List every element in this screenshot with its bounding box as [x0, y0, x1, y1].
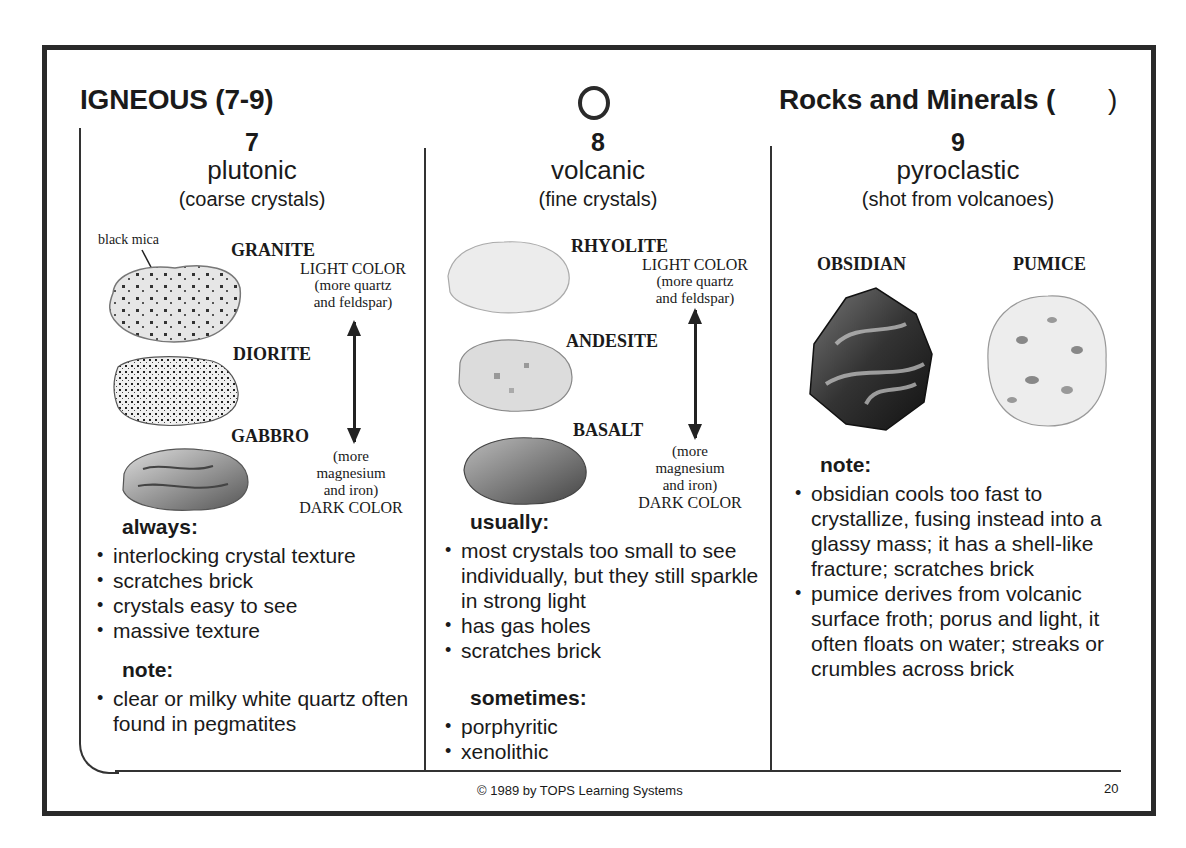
column-plutonic: 7 plutonic (coarse crystals)	[80, 128, 424, 211]
light-color-note: LIGHT COLOR (more quartz and feldspar)	[288, 260, 418, 311]
list-item: massive texture	[97, 618, 422, 643]
dark-note-line: magnesium	[291, 465, 411, 482]
list-item: scratches brick	[445, 638, 765, 663]
basalt-rock-image	[460, 432, 590, 508]
column-number: 9	[772, 128, 1144, 157]
column-subtitle: (fine crystals)	[426, 188, 770, 211]
rock-name-obsidian: OBSIDIAN	[817, 254, 906, 275]
granite-rock-image	[105, 258, 245, 348]
subject-title-close: )	[1108, 84, 1117, 116]
dark-note-line: (more	[630, 443, 750, 460]
list-item: interlocking crystal texture	[97, 543, 422, 568]
section-heading-usually: usually:	[470, 510, 549, 534]
pumice-rock-image	[982, 290, 1112, 430]
rock-name-rhyolite: RHYOLITE	[571, 236, 668, 257]
light-color-label: LIGHT COLOR	[288, 260, 418, 277]
list-item: crystals easy to see	[97, 593, 422, 618]
light-note-line: (more quartz	[630, 273, 760, 290]
light-color-label: LIGHT COLOR	[630, 256, 760, 273]
copyright: © 1989 by TOPS Learning Systems	[477, 783, 683, 798]
column-pyroclastic: 9 pyroclastic (shot from volcanoes)	[772, 128, 1144, 211]
sometimes-list: porphyritic xenolithic	[445, 714, 765, 764]
dark-note-line: (more	[291, 448, 411, 465]
column-volcanic: 8 volcanic (fine crystals)	[426, 128, 770, 211]
note-list: clear or milky white quartz often found …	[97, 686, 422, 736]
column-divider-1	[424, 148, 426, 772]
rhyolite-rock-image	[444, 236, 574, 318]
light-color-note: LIGHT COLOR (more quartz and feldspar)	[630, 256, 760, 307]
section-heading-sometimes: sometimes:	[470, 686, 587, 710]
dark-color-note: (more magnesium and iron) DARK COLOR	[291, 448, 411, 516]
page-number: 20	[1104, 781, 1118, 796]
list-item: most crystals too small to see individua…	[445, 538, 765, 613]
gabbro-rock-image	[118, 444, 253, 514]
always-list: interlocking crystal texture scratches b…	[97, 543, 422, 643]
column-type: plutonic	[80, 155, 424, 186]
light-note-line: (more quartz	[288, 277, 418, 294]
diorite-rock-image	[112, 352, 242, 430]
column-type: pyroclastic	[772, 155, 1144, 186]
column-subtitle: (shot from volcanoes)	[772, 188, 1144, 211]
subject-title: Rocks and Minerals (	[779, 84, 1055, 116]
hollow-circle-icon	[578, 86, 610, 120]
bottom-rule	[115, 770, 1121, 772]
usually-list: most crystals too small to see individua…	[445, 538, 765, 663]
left-rule	[79, 128, 81, 740]
page-title: IGNEOUS (7-9)	[80, 84, 273, 116]
column-divider-2	[770, 146, 772, 772]
dark-note-line: magnesium	[630, 460, 750, 477]
light-note-line: and feldspar)	[630, 290, 760, 307]
list-item: scratches brick	[97, 568, 422, 593]
dark-color-label: DARK COLOR	[630, 494, 750, 511]
dark-note-line: and iron)	[291, 482, 411, 499]
list-item: xenolithic	[445, 739, 765, 764]
andesite-rock-image	[454, 333, 576, 417]
rock-name-andesite: ANDESITE	[566, 331, 658, 352]
dark-color-note: (more magnesium and iron) DARK COLOR	[630, 443, 750, 511]
dark-color-label: DARK COLOR	[291, 499, 411, 516]
column-number: 7	[80, 128, 424, 157]
list-item: porphyritic	[445, 714, 765, 739]
list-item: clear or milky white quartz often found …	[97, 686, 422, 736]
section-heading-note: note:	[820, 453, 871, 477]
callout-label: black mica	[98, 232, 159, 248]
note-list: obsidian cools too fast to crystallize, …	[795, 481, 1140, 681]
column-type: volcanic	[426, 155, 770, 186]
double-arrow-icon	[353, 322, 356, 442]
obsidian-rock-image	[806, 284, 938, 434]
section-heading-note: note:	[122, 658, 173, 682]
list-item: obsidian cools too fast to crystallize, …	[795, 481, 1140, 581]
double-arrow-icon	[694, 310, 697, 438]
column-number: 8	[426, 128, 770, 157]
rock-name-pumice: PUMICE	[1013, 254, 1086, 275]
dark-note-line: and iron)	[630, 477, 750, 494]
section-heading-always: always:	[122, 515, 198, 539]
list-item: pumice derives from volcanic surface fro…	[795, 581, 1140, 681]
light-note-line: and feldspar)	[288, 294, 418, 311]
list-item: has gas holes	[445, 613, 765, 638]
column-subtitle: (coarse crystals)	[80, 188, 424, 211]
